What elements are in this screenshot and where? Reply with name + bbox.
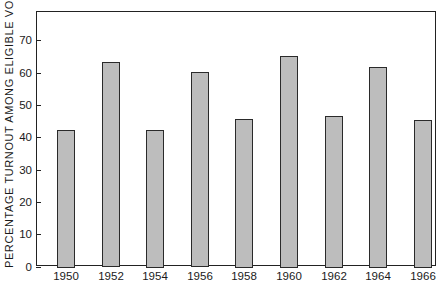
y-tick-mark [36, 267, 41, 268]
x-tick-label: 1956 [180, 270, 220, 282]
bar-1956 [191, 72, 209, 267]
y-tick-label: 10 [12, 228, 32, 240]
y-tick-mark [36, 202, 41, 203]
bar-chart: PERCENTAGE TURNOUT AMONG ELIGIBLE VOTERS… [0, 0, 442, 286]
y-tick-label: 70 [12, 34, 32, 46]
y-tick-label: 50 [12, 99, 32, 111]
y-tick-label: 20 [12, 196, 32, 208]
bar-1958 [235, 119, 253, 268]
bar-1954 [146, 130, 164, 268]
y-tick-mark [36, 170, 41, 171]
bar-1964 [369, 67, 387, 268]
bar-1952 [102, 62, 120, 267]
y-tick-mark [36, 105, 41, 106]
x-tick-label: 1950 [46, 270, 86, 282]
y-tick-mark [36, 234, 41, 235]
x-tick-label: 1952 [91, 270, 131, 282]
y-tick-mark [36, 73, 41, 74]
x-tick-label: 1958 [224, 270, 264, 282]
x-tick-label: 1960 [269, 270, 309, 282]
y-tick-label: 30 [12, 164, 32, 176]
x-tick-label: 1966 [403, 270, 442, 282]
bar-1962 [325, 116, 343, 268]
y-tick-mark [36, 137, 41, 138]
y-tick-label: 60 [12, 67, 32, 79]
x-tick-label: 1954 [135, 270, 175, 282]
bar-1966 [414, 120, 432, 268]
y-tick-label: 40 [12, 131, 32, 143]
bar-1960 [280, 56, 298, 268]
x-tick-label: 1962 [314, 270, 354, 282]
bar-1950 [57, 130, 75, 268]
y-tick-mark [36, 40, 41, 41]
y-tick-label: 0 [12, 261, 32, 273]
x-tick-label: 1964 [358, 270, 398, 282]
